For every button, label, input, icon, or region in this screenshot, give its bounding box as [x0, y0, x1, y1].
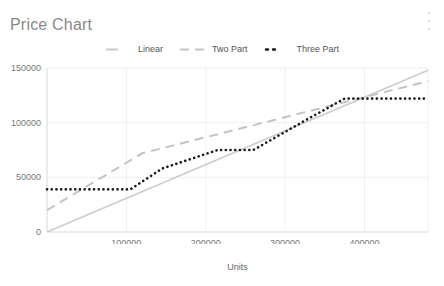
- series-line-two-part: [47, 81, 428, 210]
- legend-label-two-part: Two Part: [212, 44, 248, 54]
- kebab-dot-1: [428, 12, 430, 14]
- series-lines: [47, 70, 428, 232]
- legend-item-two-part[interactable]: Two Part: [179, 44, 248, 54]
- y-tick-label: 0: [36, 227, 41, 237]
- legend-item-linear[interactable]: Linear: [105, 44, 163, 54]
- y-tick-label: 100000: [11, 118, 41, 128]
- x-tick-label: 300000: [270, 238, 300, 244]
- x-axis-title: Units: [47, 262, 428, 272]
- plot-area: 050000100000150000 100000200000300000400…: [0, 58, 444, 244]
- chart-legend: Linear Two Part Three Part: [0, 41, 444, 57]
- page-title: Price Chart: [10, 16, 92, 34]
- kebab-dot-2: [428, 20, 430, 22]
- chart-svg: 050000100000150000 100000200000300000400…: [0, 58, 444, 244]
- kebab-menu-icon[interactable]: [422, 10, 436, 32]
- x-tick-labels: 100000200000300000400000: [111, 238, 379, 244]
- x-tick-label: 200000: [191, 238, 221, 244]
- legend-swatch-dashed-icon: [179, 45, 207, 54]
- x-tick-label: 400000: [349, 238, 379, 244]
- price-chart-card: Price Chart Linear Two Part: [0, 0, 444, 286]
- y-tick-labels: 050000100000150000: [11, 63, 41, 237]
- legend-label-three-part: Three Part: [297, 44, 340, 54]
- legend-swatch-dotted-icon: [264, 45, 292, 54]
- series-line-linear: [47, 70, 428, 232]
- legend-label-linear: Linear: [138, 44, 163, 54]
- y-tick-label: 50000: [16, 172, 41, 182]
- kebab-dot-3: [428, 28, 430, 30]
- x-tick-label: 100000: [111, 238, 141, 244]
- legend-swatch-solid-icon: [105, 45, 133, 54]
- y-tick-label: 150000: [11, 63, 41, 73]
- legend-item-three-part[interactable]: Three Part: [264, 44, 340, 54]
